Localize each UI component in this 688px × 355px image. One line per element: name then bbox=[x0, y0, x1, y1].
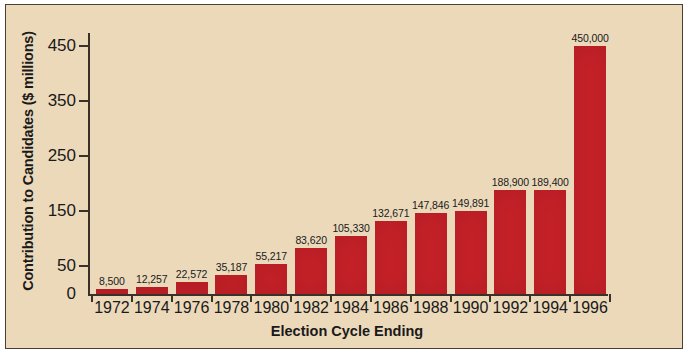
x-tick-mark bbox=[330, 294, 332, 302]
y-tick-mark bbox=[79, 155, 90, 157]
bar-value-label: 188,900 bbox=[492, 176, 529, 188]
x-tick-label: 1972 bbox=[94, 299, 130, 317]
bar-value-label: 35,187 bbox=[216, 261, 248, 273]
bar-rect[interactable] bbox=[136, 287, 168, 294]
bar-group[interactable]: 22,572 bbox=[176, 268, 208, 294]
bar-group[interactable]: 83,620 bbox=[295, 234, 327, 294]
bar-group[interactable]: 188,900 bbox=[494, 176, 526, 294]
bar-group[interactable]: 132,671 bbox=[375, 207, 407, 294]
y-tick-label: 150 bbox=[48, 201, 76, 221]
x-tick-mark bbox=[171, 294, 173, 302]
bar-rect[interactable] bbox=[335, 236, 367, 294]
bar-value-label: 22,572 bbox=[176, 268, 208, 280]
x-tick-mark bbox=[250, 294, 252, 302]
x-tick-mark bbox=[489, 294, 491, 302]
y-axis-line bbox=[88, 33, 90, 296]
x-tick-mark bbox=[609, 294, 611, 302]
y-tick-label: 50 bbox=[57, 256, 76, 276]
bar-value-label: 132,671 bbox=[372, 207, 409, 219]
bar-rect[interactable] bbox=[295, 248, 327, 294]
y-axis-title: Contribution to Candidates ($ millions) bbox=[20, 21, 36, 301]
bar-value-label: 149,891 bbox=[452, 197, 489, 209]
x-tick-label: 1986 bbox=[373, 299, 409, 317]
bar-rect[interactable] bbox=[375, 221, 407, 294]
bar-rect[interactable] bbox=[534, 190, 566, 294]
bar-value-label: 189,400 bbox=[532, 176, 569, 188]
bar-chart-figure: Contribution to Candidates ($ millions) … bbox=[0, 0, 688, 355]
x-tick-mark bbox=[529, 294, 531, 302]
x-axis-title: Election Cycle Ending bbox=[88, 323, 606, 339]
bar-group[interactable]: 149,891 bbox=[455, 197, 487, 294]
y-tick-label: 0 bbox=[67, 284, 76, 304]
x-tick-mark bbox=[91, 294, 93, 302]
bar-rect[interactable] bbox=[455, 211, 487, 294]
bar-value-label: 8,500 bbox=[99, 275, 125, 287]
bar-value-label: 147,846 bbox=[412, 199, 449, 211]
bar-rect[interactable] bbox=[494, 190, 526, 294]
x-tick-mark bbox=[290, 294, 292, 302]
x-tick-label: 1974 bbox=[134, 299, 170, 317]
x-tick-label: 1996 bbox=[572, 299, 608, 317]
x-tick-label: 1984 bbox=[333, 299, 369, 317]
x-tick-label: 1992 bbox=[493, 299, 529, 317]
bar-group[interactable]: 12,257 bbox=[136, 273, 168, 294]
x-tick-label: 1982 bbox=[293, 299, 329, 317]
x-tick-mark bbox=[450, 294, 452, 302]
bar-value-label: 450,000 bbox=[571, 32, 608, 44]
bar-rect[interactable] bbox=[574, 46, 606, 294]
x-tick-mark bbox=[569, 294, 571, 302]
y-tick-label: 350 bbox=[48, 91, 76, 111]
x-tick-label: 1980 bbox=[254, 299, 290, 317]
bar-group[interactable]: 35,187 bbox=[215, 261, 247, 294]
chart-plate: Contribution to Candidates ($ millions) … bbox=[5, 4, 683, 349]
y-tick-label: 250 bbox=[48, 146, 76, 166]
x-tick-mark bbox=[131, 294, 133, 302]
bar-value-label: 105,330 bbox=[332, 222, 369, 234]
bar-group[interactable]: 450,000 bbox=[574, 32, 606, 294]
bar-rect[interactable] bbox=[415, 213, 447, 294]
bar-rect[interactable] bbox=[255, 264, 287, 294]
bar-group[interactable]: 105,330 bbox=[335, 222, 367, 294]
y-tick-mark bbox=[79, 210, 90, 212]
bar-group[interactable]: 55,217 bbox=[255, 250, 287, 294]
x-tick-label: 1990 bbox=[453, 299, 489, 317]
bar-group[interactable]: 8,500 bbox=[96, 275, 128, 294]
x-tick-mark bbox=[211, 294, 213, 302]
y-tick-mark bbox=[79, 45, 90, 47]
x-tick-label: 1994 bbox=[532, 299, 568, 317]
bar-group[interactable]: 147,846 bbox=[415, 199, 447, 294]
x-tick-label: 1978 bbox=[214, 299, 250, 317]
bar-value-label: 55,217 bbox=[256, 250, 288, 262]
x-tick-label: 1976 bbox=[174, 299, 210, 317]
plot-area: 050150250350450 8,50012,25722,57235,1875… bbox=[88, 33, 606, 296]
bar-rect[interactable] bbox=[215, 275, 247, 294]
bar-group[interactable]: 189,400 bbox=[534, 176, 566, 294]
x-tick-label: 1988 bbox=[413, 299, 449, 317]
y-tick-mark bbox=[79, 265, 90, 267]
y-tick-label: 450 bbox=[48, 36, 76, 56]
bar-value-label: 12,257 bbox=[136, 273, 168, 285]
x-tick-mark bbox=[410, 294, 412, 302]
bar-rect[interactable] bbox=[96, 289, 128, 294]
bar-rect[interactable] bbox=[176, 282, 208, 294]
y-tick-mark bbox=[79, 100, 90, 102]
bar-value-label: 83,620 bbox=[295, 234, 327, 246]
x-tick-mark bbox=[370, 294, 372, 302]
